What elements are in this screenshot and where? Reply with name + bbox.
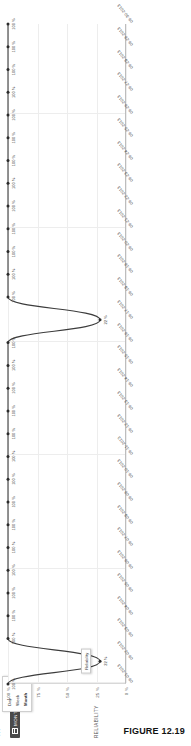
- data-point-marker[interactable]: [7, 273, 10, 276]
- data-point-label: 100 %: [11, 428, 16, 439]
- data-point-marker[interactable]: [7, 23, 10, 26]
- data-point-label: 100 %: [11, 132, 16, 143]
- data-point-marker[interactable]: [7, 341, 10, 344]
- data-point-label: 100 %: [11, 519, 16, 530]
- data-point-marker[interactable]: [7, 250, 10, 253]
- reliability-chart: 100 %75 %50 %25 %0 %: [8, 24, 126, 684]
- data-point-label: 100 %: [11, 337, 16, 348]
- data-point-label: 100 %: [11, 474, 16, 485]
- ellipsis-icon[interactable]: •••: [0, 728, 2, 736]
- data-point-label: 100 %: [11, 565, 16, 576]
- data-point-label: 100 %: [11, 382, 16, 393]
- figure-caption: FIGURE 12.19: [124, 726, 185, 736]
- data-point-label: 100 %: [11, 246, 16, 257]
- data-point-label: 100 %: [11, 451, 16, 462]
- data-point-marker[interactable]: [7, 159, 10, 162]
- rotated-figure-wrapper: ••• MONTH Day Week Month RELIABILITY 100…: [0, 0, 191, 746]
- data-point-marker[interactable]: [99, 660, 102, 663]
- data-point-marker[interactable]: [7, 591, 10, 594]
- y-axis-tick-label: 0 %: [124, 687, 129, 695]
- data-point-marker[interactable]: [7, 182, 10, 185]
- data-point-marker[interactable]: [7, 91, 10, 94]
- data-point-label: 100 %: [11, 109, 16, 120]
- data-point-marker[interactable]: [7, 637, 10, 640]
- data-point-marker[interactable]: [7, 364, 10, 367]
- data-point-label: 100 %: [11, 178, 16, 189]
- data-point-marker[interactable]: [7, 455, 10, 458]
- y-axis-tick-label: 25 %: [94, 687, 99, 698]
- data-point-label: 100 %: [11, 269, 16, 280]
- data-point-marker[interactable]: [7, 569, 10, 572]
- data-point-label: 100 %: [11, 542, 16, 553]
- data-point-label: 100 %: [11, 41, 16, 52]
- data-point-marker[interactable]: [7, 683, 10, 686]
- data-point-label: 100 %: [11, 360, 16, 371]
- data-point-label: 100 %: [11, 678, 16, 689]
- data-point-label: 100 %: [11, 587, 16, 598]
- data-point-label: 100 %: [11, 18, 16, 29]
- y-axis-tick-label: 75 %: [35, 687, 40, 698]
- reliability-figure: ••• MONTH Day Week Month RELIABILITY 100…: [0, 0, 191, 746]
- data-point-marker[interactable]: [7, 136, 10, 139]
- data-point-marker[interactable]: [7, 500, 10, 503]
- data-point-label: 100 %: [11, 405, 16, 416]
- data-point-marker[interactable]: [7, 478, 10, 481]
- data-point-label: 100 %: [11, 155, 16, 166]
- data-point-marker[interactable]: [7, 114, 10, 117]
- data-point-label: 100 %: [11, 610, 16, 621]
- calendar-icon: [12, 728, 18, 734]
- data-point-marker[interactable]: [7, 227, 10, 230]
- data-point-marker[interactable]: [99, 318, 102, 321]
- data-point-label: 100 %: [11, 87, 16, 98]
- data-point-marker[interactable]: [7, 546, 10, 549]
- chart-tooltip: Reliability: [81, 649, 91, 674]
- x-axis-labels: 06-01-201306-02-201306-03-201306-04-2013…: [130, 24, 186, 684]
- data-point-label: 100 %: [11, 200, 16, 211]
- data-point-label: 100 %: [11, 496, 16, 507]
- data-point-marker[interactable]: [7, 409, 10, 412]
- x-axis-tick-label: 06-30-2013: [116, 3, 134, 24]
- data-point-label: 22 %: [103, 657, 108, 666]
- figure-page: ••• MONTH Day Week Month RELIABILITY 100…: [0, 0, 191, 746]
- reliability-line-series: [8, 24, 126, 684]
- data-point-label: 22 %: [103, 315, 108, 324]
- data-point-marker[interactable]: [7, 614, 10, 617]
- y-axis-tick-label: 50 %: [65, 687, 70, 698]
- data-point-label: 100 %: [11, 64, 16, 75]
- data-point-marker[interactable]: [7, 432, 10, 435]
- data-point-marker[interactable]: [7, 45, 10, 48]
- data-point-label: 100 %: [11, 291, 16, 302]
- granularity-control[interactable]: MONTH Day Week Month: [4, 703, 22, 738]
- data-point-marker[interactable]: [7, 523, 10, 526]
- y-axis-title: RELIABILITY: [93, 705, 98, 738]
- series-line: [8, 24, 100, 684]
- data-point-marker[interactable]: [7, 68, 10, 71]
- data-point-label: 100 %: [11, 223, 16, 234]
- data-point-label: 100 %: [11, 633, 16, 644]
- data-point-marker[interactable]: [7, 205, 10, 208]
- data-point-marker[interactable]: [7, 387, 10, 390]
- data-point-marker[interactable]: [7, 296, 10, 299]
